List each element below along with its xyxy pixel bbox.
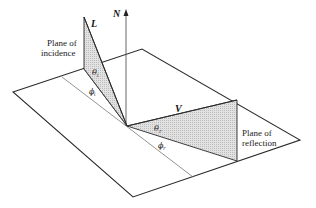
brdf-geometry-diagram: N L V Plane of incidence Plane of reflec… (0, 0, 316, 208)
plane-reflection-label-2: reflection (242, 138, 277, 148)
plane-incidence-label-1: Plane of (47, 38, 77, 48)
light-label: L (90, 18, 97, 29)
normal-arrowhead-icon (124, 9, 129, 16)
plane-reflection-label-1: Plane of (242, 128, 272, 138)
normal-label: N (112, 8, 121, 19)
plane-incidence-label-2: incidence (41, 48, 75, 58)
